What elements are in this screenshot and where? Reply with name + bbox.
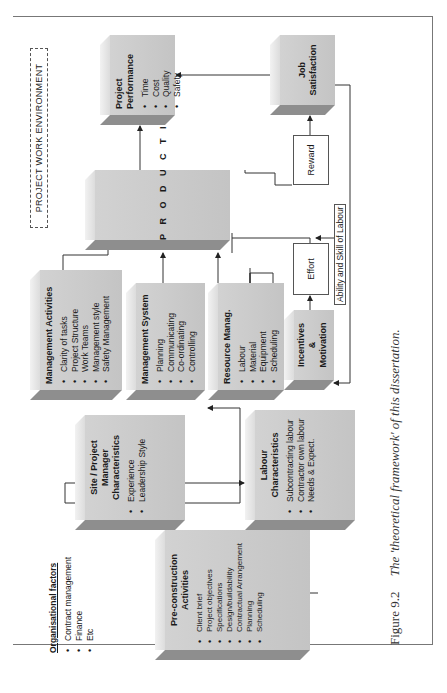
figure-caption: Figure 9.2 The 'theoretical framework' o… — [387, 329, 403, 645]
box-top — [100, 35, 110, 115]
site-manager-box: Site / Project Manager Characteristics E… — [75, 415, 185, 530]
title-line: Manager — [100, 421, 111, 514]
site-manager-title: Site / Project Manager Characteristics — [89, 421, 122, 514]
pre-construction-item: Planning — [245, 536, 255, 644]
management-system-item: Communicating — [166, 289, 177, 384]
labour-item: Contractor own labour — [296, 416, 307, 514]
box-top — [245, 410, 255, 520]
title-line: Job — [297, 45, 308, 96]
box-side — [100, 115, 175, 125]
site-manager-item: Leadership Style — [137, 421, 148, 514]
rotated-page: PROJECT WORK ENVIRONMENT Organisational … — [0, 0, 447, 693]
box-face: Management Activities Clarity of tasks P… — [40, 270, 122, 390]
box-top — [284, 310, 294, 380]
title-line: Project — [114, 41, 125, 109]
pre-construction-item: Client brief — [195, 536, 205, 644]
box-side — [270, 105, 335, 115]
title-line: Activities — [180, 536, 191, 644]
box-side — [30, 390, 122, 400]
job-satisfaction-title: Job Satisfaction — [297, 45, 319, 96]
resource-item: Labour — [237, 289, 248, 384]
management-activities-box: Management Activities Clarity of tasks P… — [30, 270, 122, 400]
resource-management-box: Resource Manag. Labour Material Equipmen… — [208, 283, 284, 400]
box-side — [208, 390, 284, 400]
box-side — [245, 520, 355, 530]
pre-construction-item: Specifications — [215, 536, 225, 644]
pre-construction-item: Scheduling — [255, 536, 265, 644]
pre-construction-title: Pre-construction Activities — [169, 536, 191, 644]
performance-item: Time — [140, 41, 151, 109]
project-performance-title: Project Performance — [114, 41, 136, 109]
box-top — [270, 35, 280, 105]
project-work-environment-label: PROJECT WORK ENVIRONMENT — [30, 48, 48, 228]
management-activity-item: Clarity of tasks — [59, 276, 70, 384]
org-factor-item: Contract management — [63, 533, 74, 653]
box-side — [155, 650, 310, 660]
labour-characteristics-box: Labour Characteristics Subcontracting la… — [245, 410, 355, 530]
title-line: Characteristics — [270, 416, 281, 514]
management-activity-item: Project Structure — [70, 276, 81, 384]
incentives-motivation-box: Incentives & Motivation — [284, 310, 334, 390]
effort-box: Effort — [293, 243, 329, 295]
management-system-item: Co-ordinating — [176, 289, 187, 384]
pre-construction-item: Contractual Arrangement — [235, 536, 245, 644]
resource-management-title: Resource Manag. — [222, 289, 233, 384]
title-line: Labour — [259, 416, 270, 514]
incentives-title: Incentives & Motivation — [296, 314, 329, 376]
productivity-box: PRODUCTIVITY — [85, 170, 230, 250]
box-face: Pre-construction Activities Client brief… — [165, 530, 310, 650]
reward-box: Reward — [293, 135, 329, 185]
productivity-label: PRODUCTIVITY — [157, 170, 168, 240]
title-line: Site / Project — [89, 421, 100, 514]
pre-construction-item: Project objectives — [205, 536, 215, 644]
org-factor-item: Etc — [85, 533, 96, 653]
management-activities-title: Management Activities — [44, 276, 55, 384]
ability-skill-label: Ability and Skill of Labour — [334, 204, 346, 305]
management-system-item: Controlling — [187, 289, 198, 384]
title-line: & — [307, 314, 318, 376]
performance-item: Cost — [151, 41, 162, 109]
resource-item: Material — [248, 289, 259, 384]
box-top — [208, 283, 218, 390]
box-face: Management System Planning Communicating… — [136, 283, 205, 390]
box-face: Site / Project Manager Characteristics E… — [85, 415, 185, 520]
title-line: Performance — [125, 41, 136, 109]
box-top — [30, 270, 40, 390]
title-line: Incentives — [296, 314, 307, 376]
labour-item: Needs & Expect. — [306, 416, 317, 514]
figure-caption-text: The 'theoretical framework' of this diss… — [387, 329, 402, 576]
box-face: PRODUCTIVITY — [95, 170, 230, 240]
labour-characteristics-title: Labour Characteristics — [259, 416, 281, 514]
box-top — [85, 170, 95, 240]
box-side — [85, 240, 230, 250]
management-system-box: Management System Planning Communicating… — [126, 283, 205, 400]
frame-right-line — [13, 16, 433, 17]
performance-item: Quality — [161, 41, 172, 109]
management-activity-item: Safety Management — [101, 276, 112, 384]
management-activity-item: Work Teams — [80, 276, 91, 384]
organisational-factors-title: Organisational factors — [48, 533, 59, 653]
resource-item: Scheduling — [269, 289, 280, 384]
box-top — [75, 415, 85, 520]
box-side — [284, 380, 334, 390]
title-line: Motivation — [318, 314, 329, 376]
title-line: Pre-construction — [169, 536, 180, 644]
box-top — [155, 530, 165, 650]
box-side — [126, 390, 205, 400]
box-face: Resource Manag. Labour Material Equipmen… — [218, 283, 284, 390]
figure-number: Figure 9.2 — [387, 592, 402, 645]
management-activity-item: Management style — [91, 276, 102, 384]
org-factor-item: Finance — [74, 533, 85, 653]
management-system-title: Management System — [140, 289, 151, 384]
box-top — [126, 283, 136, 390]
box-face: Job Satisfaction — [280, 35, 335, 105]
title-line: Characteristics — [111, 421, 122, 514]
box-face: Labour Characteristics Subcontracting la… — [255, 410, 355, 520]
site-manager-item: Experience — [126, 421, 137, 514]
pre-construction-item: Design/buildability — [225, 536, 235, 644]
frame-bottom-line — [432, 17, 433, 645]
labour-item: Subcontracting labour — [285, 416, 296, 514]
resource-item: Equipment — [258, 289, 269, 384]
box-face: Project Performance Time Cost Quality Sa… — [110, 35, 175, 115]
box-side — [75, 520, 185, 530]
